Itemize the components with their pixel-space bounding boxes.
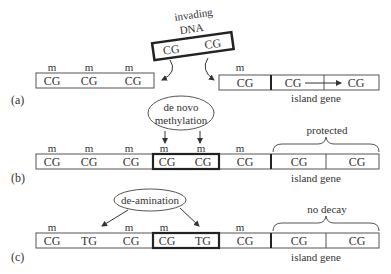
svg-text:CG: CG — [291, 155, 308, 169]
svg-text:CG: CG — [159, 234, 176, 248]
svg-text:de-amination: de-amination — [121, 194, 180, 206]
svg-text:m: m — [85, 61, 94, 73]
svg-text:TG: TG — [195, 234, 211, 248]
svg-text:m: m — [236, 61, 245, 73]
panel-c-label: (c) — [11, 250, 24, 264]
panel-a: (a) invading DNA CG CG m m m CG CG CG m … — [11, 3, 379, 107]
gene-label-c: island gene — [291, 251, 341, 263]
svg-text:CG: CG — [162, 42, 181, 58]
no-decay-brace — [273, 216, 379, 231]
insertion-arrow-left — [162, 60, 173, 80]
protected-brace — [273, 137, 379, 152]
svg-text:invading: invading — [174, 6, 214, 23]
svg-text:CG: CG — [349, 234, 366, 248]
svg-text:de novo: de novo — [163, 101, 199, 113]
panel-c: (c) de-amination m m m m CG TG CG CG TG … — [11, 189, 379, 264]
svg-text:CG: CG — [204, 36, 223, 52]
svg-text:m: m — [236, 221, 245, 233]
svg-text:CG: CG — [237, 76, 254, 90]
svg-text:m: m — [48, 61, 57, 73]
gene-label-b: island gene — [291, 172, 341, 184]
svg-text:m: m — [125, 61, 134, 73]
protected-label: protected — [307, 124, 348, 136]
svg-text:CG: CG — [123, 234, 140, 248]
svg-text:CG: CG — [125, 74, 142, 88]
svg-text:CG: CG — [81, 74, 98, 88]
svg-text:m: m — [85, 142, 94, 154]
svg-text:m: m — [125, 221, 134, 233]
svg-text:m: m — [125, 142, 134, 154]
insertion-arrow-right — [205, 58, 214, 80]
svg-text:CG: CG — [44, 155, 61, 169]
gene-label-a: island gene — [291, 92, 341, 104]
svg-text:CG: CG — [81, 155, 98, 169]
svg-text:CG: CG — [291, 234, 308, 248]
svg-text:CG: CG — [44, 234, 61, 248]
svg-text:m: m — [48, 221, 57, 233]
svg-text:CG: CG — [349, 155, 366, 169]
svg-text:CG: CG — [348, 76, 365, 90]
no-decay-label: no decay — [307, 203, 347, 215]
svg-text:TG: TG — [81, 234, 97, 248]
svg-text:m: m — [48, 142, 57, 154]
panel-b: (b) de novo methylation m m m m m m CG C… — [11, 96, 379, 185]
methylation-diagram: (a) invading DNA CG CG m m m CG CG CG m … — [0, 0, 391, 274]
svg-text:CG: CG — [237, 234, 254, 248]
panel-a-label: (a) — [11, 93, 24, 107]
svg-text:CG: CG — [44, 74, 61, 88]
svg-text:m: m — [197, 142, 206, 154]
svg-text:CG: CG — [195, 155, 212, 169]
svg-text:CG: CG — [237, 155, 254, 169]
svg-text:DNA: DNA — [179, 21, 204, 36]
svg-text:m: m — [160, 221, 169, 233]
svg-text:methylation: methylation — [155, 114, 208, 126]
svg-text:CG: CG — [123, 155, 140, 169]
panel-b-label: (b) — [11, 171, 25, 185]
svg-text:CG: CG — [159, 155, 176, 169]
svg-text:m: m — [160, 142, 169, 154]
svg-text:m: m — [236, 142, 245, 154]
invading-dna: invading DNA CG CG — [148, 3, 234, 60]
svg-text:CG: CG — [285, 76, 302, 90]
